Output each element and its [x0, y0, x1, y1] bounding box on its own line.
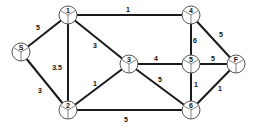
- node-3: 3: [120, 55, 138, 73]
- edge-weight-label: 3: [38, 87, 42, 94]
- edge-3-6: [129, 64, 191, 110]
- edge-weight-label: 5: [211, 55, 215, 62]
- edge-weight-label: 1: [126, 6, 130, 13]
- edge-2-3: [68, 64, 129, 110]
- edge-weight-label: 1: [93, 80, 97, 87]
- graph-diagram: 533.531154565511 1S2345F6: [0, 0, 259, 130]
- node-label: F: [234, 56, 239, 63]
- node-label: 6: [189, 102, 193, 109]
- edge-weight-label: 5: [158, 76, 162, 83]
- edge-weight-label: 1: [218, 85, 222, 92]
- nodes-layer: 1S2345F6: [12, 6, 245, 119]
- node-label: 5: [189, 56, 193, 63]
- node-6: 6: [182, 101, 200, 119]
- node-label: S: [19, 44, 24, 51]
- node-4: 4: [182, 6, 200, 24]
- node-F: F: [227, 55, 245, 73]
- node-5: 5: [182, 55, 200, 73]
- edge-weight-label: 5: [124, 116, 128, 123]
- edge-weight-label: 4: [154, 55, 158, 62]
- edge-S-2: [21, 52, 68, 110]
- node-label: 4: [189, 7, 193, 14]
- edge-weight-label: 6: [193, 37, 197, 44]
- node-2: 2: [59, 101, 77, 119]
- edge-weight-label: 3.5: [52, 64, 62, 71]
- edge-weight-label: 5: [219, 31, 223, 38]
- edge-weight-label: 5: [36, 24, 40, 31]
- node-S: S: [12, 43, 30, 61]
- node-label: 2: [66, 102, 70, 109]
- edge-weight-label: 1: [194, 81, 198, 88]
- edge-weight-label: 3: [93, 42, 97, 49]
- node-label: 1: [66, 7, 70, 14]
- node-1: 1: [59, 6, 77, 24]
- node-label: 3: [127, 56, 131, 63]
- edge-1-3: [68, 15, 129, 64]
